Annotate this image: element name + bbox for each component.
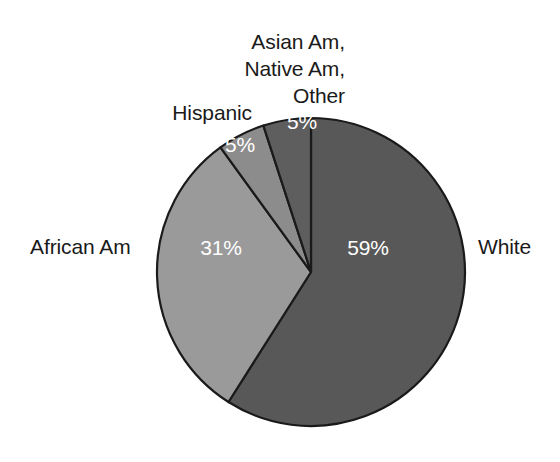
pie-value-asian-native-other: 5% bbox=[277, 110, 327, 134]
pie-label-asian-line2: Native Am, bbox=[244, 57, 345, 80]
pie-value-hispanic: 5% bbox=[215, 133, 265, 157]
pie-value-white: 59% bbox=[337, 236, 399, 260]
pie-label-asian-line1: Asian Am, bbox=[251, 30, 345, 53]
pie-label-asian-line3: Other bbox=[293, 84, 345, 107]
pie-value-african-am: 31% bbox=[190, 236, 252, 260]
pie-chart-figure: Asian Am,Native Am,Other Hispanic Africa… bbox=[0, 0, 560, 462]
pie-label-white: White bbox=[478, 233, 558, 260]
pie-label-african-am: African Am bbox=[30, 233, 170, 260]
pie-label-asian-native-other: Asian Am,Native Am,Other bbox=[205, 28, 345, 109]
pie-label-hispanic: Hispanic bbox=[140, 99, 252, 126]
